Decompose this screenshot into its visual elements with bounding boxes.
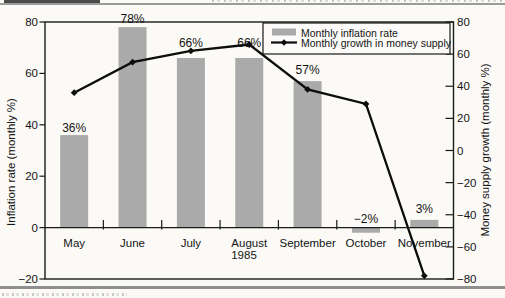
month-label: October: [346, 237, 387, 249]
line-marker: [363, 101, 370, 108]
month-label: July: [181, 237, 202, 249]
inflation-bar: [294, 81, 322, 227]
bar-value-label: 3%: [416, 202, 434, 216]
right-axis-tick-label: 0: [457, 145, 463, 157]
right-axis-tick-label: 40: [457, 80, 470, 92]
month-label: September: [279, 237, 335, 249]
bar-value-label: −2%: [354, 212, 379, 226]
inflation-bar: [352, 228, 380, 233]
right-axis-tick-label: −80: [457, 273, 477, 285]
month-label: May: [63, 237, 85, 249]
inflation-bar: [410, 220, 438, 228]
right-axis-tick-label: 80: [457, 16, 470, 28]
left-axis-tick-label: −20: [18, 273, 38, 285]
bar-value-label: 78%: [121, 12, 145, 26]
line-marker: [421, 272, 428, 279]
bar-value-label: 57%: [296, 63, 320, 77]
bottom-rule: [0, 286, 505, 289]
right-axis-tick-label: −40: [457, 209, 477, 221]
month-label: November: [398, 237, 451, 249]
right-axis-tick-label: −20: [457, 177, 477, 189]
left-axis-tick-label: 0: [32, 222, 38, 234]
legend-label-money: Monthly growth in money supply: [301, 37, 452, 49]
left-axis-tick-label: 20: [25, 170, 38, 182]
month-label: June: [120, 237, 145, 249]
bar-value-label: 36%: [62, 121, 86, 135]
right-axis-tick-label: 20: [457, 112, 470, 124]
left-axis-tick-label: 40: [25, 119, 38, 131]
month-label: August: [231, 237, 268, 249]
left-axis-tick-label: 60: [25, 67, 38, 79]
legend-swatch: [272, 29, 296, 36]
left-axis-title: Inflation rate (monthly %): [5, 98, 17, 226]
clipped-source-text-remnant: [2, 293, 127, 296]
inflation-money-supply-chart: 806040200−20806040200−20−40−60−80Inflati…: [0, 0, 505, 298]
year-label: 1985: [231, 249, 257, 261]
inflation-bar: [235, 58, 263, 228]
right-axis-tick-label: 60: [457, 48, 470, 60]
inflation-bar: [119, 27, 147, 227]
inflation-bar: [177, 58, 205, 228]
scanned-figure-page: 806040200−20806040200−20−40−60−80Inflati…: [0, 0, 505, 298]
right-axis-tick-label: −60: [457, 241, 477, 253]
right-axis-title: Money supply growth (monthly %): [479, 63, 491, 236]
inflation-bar: [60, 135, 88, 228]
left-axis-tick-label: 80: [25, 16, 38, 28]
